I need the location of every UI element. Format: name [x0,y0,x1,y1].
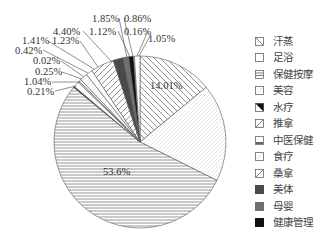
legend-item: 桑拿 [255,164,313,181]
legend-label: 汗蒸 [273,33,293,48]
slice-label: 0.02% [33,55,60,66]
legend-label: 桑拿 [273,165,293,180]
legend-swatch-icon [255,201,264,210]
slice-label: 1.05% [148,33,175,44]
legend-swatch-icon [255,118,264,127]
leader-line [62,72,82,79]
legend-item: 健康管理 [255,214,313,231]
slice-label: 0.86% [124,13,151,24]
legend-item: 足浴 [255,49,313,66]
slice-label: 1.23% [52,35,79,46]
legend-item: 保健按摩 [255,65,313,82]
legend-swatch-icon [255,217,264,226]
legend-swatch-icon [255,168,264,177]
slice-label: 1.85% [92,13,119,24]
legend-item: 水疗 [255,98,313,115]
legend-item: 母婴 [255,197,313,214]
legend-label: 美容 [273,82,293,97]
legend: 汗蒸足浴保健按摩美容水疗推拿中医保健食疗桑拿美体母婴健康管理 [255,32,313,230]
legend-swatch-icon [255,36,264,45]
slice-label-inner: 53.6% [103,166,130,177]
legend-item: 汗蒸 [255,32,313,49]
slice-label: 1.12% [89,26,116,37]
legend-swatch-icon [255,52,264,61]
pie-chart: 1.85%0.86%4.40%1.12%0.16%1.05%1.41%1.23%… [0,0,250,246]
legend-swatch-icon [255,102,264,111]
legend-label: 足浴 [273,49,293,64]
legend-label: 食疗 [273,148,293,163]
slice-label: 0.21% [27,86,54,97]
legend-swatch-icon [255,85,264,94]
legend-label: 美体 [273,181,293,196]
legend-swatch-icon [255,151,264,160]
slice-label-inner: 14.01% [150,80,183,91]
legend-label: 健康管理 [273,214,313,229]
legend-swatch-icon [255,69,264,78]
leader-line [80,41,98,67]
legend-label: 水疗 [273,99,293,114]
legend-swatch-icon [255,184,264,193]
legend-label: 中医保健 [273,132,313,147]
legend-item: 美体 [255,181,313,198]
legend-item: 中医保健 [255,131,313,148]
legend-label: 推拿 [273,115,293,130]
legend-item: 美容 [255,82,313,99]
legend-item: 食疗 [255,148,313,165]
legend-item: 推拿 [255,115,313,132]
legend-swatch-icon [255,135,264,144]
legend-label: 保健按摩 [273,66,313,81]
leader-line [119,18,127,58]
legend-label: 母婴 [273,198,293,213]
